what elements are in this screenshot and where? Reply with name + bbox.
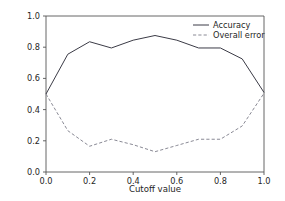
x-tick-label: 0.2 [83,176,96,186]
y-tick-label: 0.0 [27,167,40,177]
x-axis-label: Cutoff value [129,184,181,194]
y-axis-ticklabels: 0.00.20.40.60.81.0 [27,11,40,177]
y-tick-label: 0.6 [27,73,40,83]
y-tick-label: 0.4 [27,105,40,115]
line-chart-plot: 0.00.20.40.60.81.0 0.00.20.40.60.81.0 Cu… [0,0,285,201]
y-tick-label: 0.2 [27,136,40,146]
x-tick-label: 0.0 [39,176,52,186]
x-tick-label: 0.8 [214,176,227,186]
legend-label-overall-error: Overall error [213,30,265,40]
legend-label-accuracy: Accuracy [213,20,251,30]
chart-figure: 0.00.20.40.60.81.0 0.00.20.40.60.81.0 Cu… [0,0,285,201]
y-tick-label: 0.8 [27,42,40,52]
y-tick-label: 1.0 [27,11,40,21]
x-tick-label: 1.0 [257,176,270,186]
legend: Accuracy Overall error [189,17,265,41]
